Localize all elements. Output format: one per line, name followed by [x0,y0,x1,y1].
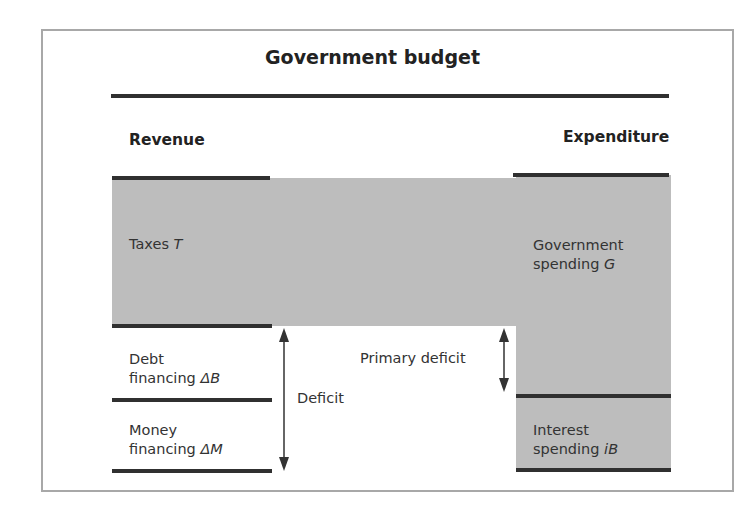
deficit-arrow-icon [279,328,289,471]
primary-deficit-arrow-icon [499,328,509,392]
primary-deficit-label: Primary deficit [360,349,466,368]
deficit-label: Deficit [297,389,344,408]
arrows-layer [0,0,745,517]
